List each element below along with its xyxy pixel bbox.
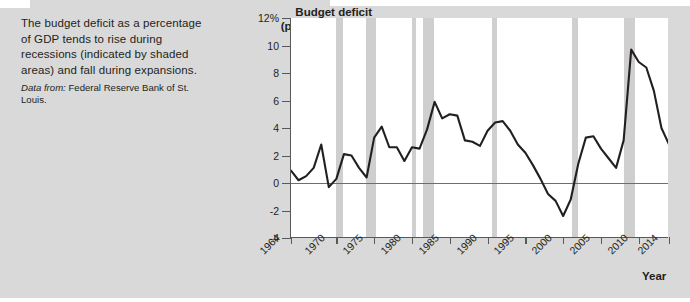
y-tick-label: 0 [273, 177, 279, 189]
deficit-series-line [291, 18, 668, 237]
y-tick-label: 8 [273, 67, 279, 79]
caption-body: The budget deficit as a percentage of GD… [21, 16, 213, 78]
y-tick-label: -2 [270, 205, 279, 217]
x-axis-title: Year [642, 270, 666, 282]
plot-inner [291, 18, 668, 237]
figure-caption: The budget deficit as a percentage of GD… [21, 16, 213, 105]
x-tick-mark [336, 237, 337, 244]
x-tick-mark [601, 237, 602, 244]
x-tick-mark [563, 237, 564, 244]
x-tick-mark [488, 237, 489, 244]
x-tick-mark [525, 237, 526, 244]
y-tick-mark [282, 73, 291, 74]
x-tick-mark [291, 237, 292, 244]
y-tick-mark [282, 18, 291, 19]
y-tick-label: 10 [267, 40, 279, 52]
y-tick-mark [282, 101, 291, 102]
y-tick-mark [282, 128, 291, 129]
figure-card: The budget deficit as a percentage of GD… [0, 0, 690, 302]
chart: Budget deficit (percent of GDP) 12%10864… [212, 0, 690, 302]
plot-area: 12%1086420-2-4 1964197019751980198519901… [290, 18, 668, 238]
x-tick-mark [669, 237, 670, 244]
y-tick-mark [282, 238, 291, 239]
card-notch-left [0, 0, 30, 8]
y-tick-mark [282, 211, 291, 212]
y-tick-label: 2 [273, 150, 279, 162]
y-tick-label: 6 [273, 95, 279, 107]
y-tick-mark [282, 183, 291, 184]
caption-source: Data from: Federal Reserve Bank of St. L… [21, 82, 213, 105]
caption-source-lead: Data from: [21, 82, 66, 93]
y-tick-label: 12% [258, 12, 279, 24]
x-tick-mark [374, 237, 375, 244]
y-tick-mark [282, 156, 291, 157]
y-tick-mark [282, 46, 291, 47]
x-tick-mark [450, 237, 451, 244]
y-tick-label: 4 [273, 122, 279, 134]
x-tick-mark [412, 237, 413, 244]
